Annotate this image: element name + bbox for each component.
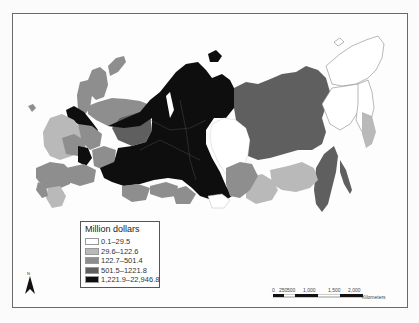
legend-swatch xyxy=(85,248,99,255)
region-sakhalin xyxy=(340,160,352,194)
legend-swatch xyxy=(85,267,99,274)
island-kaliningrad xyxy=(28,104,36,112)
legend-title: Million dollars xyxy=(85,224,155,234)
scale-tick: 0 xyxy=(272,287,275,293)
legend-item: 29.6–122.6 xyxy=(85,247,155,257)
region-amur xyxy=(270,162,318,192)
island-severnaya-zemlya xyxy=(208,50,222,62)
region-south xyxy=(46,186,66,208)
scale-tick: 1,000 xyxy=(303,287,316,293)
choropleth-map xyxy=(0,0,419,323)
scale-tick: 1,500 xyxy=(328,287,341,293)
island-novaya-zemlya xyxy=(108,56,126,76)
legend-item: 0.1–29.5 xyxy=(85,237,155,247)
legend-label: 0.1–29.5 xyxy=(101,237,130,246)
legend-swatch xyxy=(85,238,99,245)
map-legend: Million dollars 0.1–29.5 29.6–122.6 122.… xyxy=(80,221,160,288)
legend-label: 501.5–1221.8 xyxy=(101,266,147,275)
island-new-siberian xyxy=(334,38,344,46)
legend-swatch xyxy=(85,257,99,264)
legend-item: 1,221.9–22,946.8 xyxy=(85,275,155,285)
scale-tick: 500 xyxy=(287,287,295,293)
region-chukotka xyxy=(326,36,384,86)
legend-label: 1,221.9–22,946.8 xyxy=(101,275,159,284)
region-south-center xyxy=(66,164,96,186)
scale-bar-graphic xyxy=(273,294,363,298)
legend-label: 29.6–122.6 xyxy=(101,247,139,256)
scale-unit: Kilometers xyxy=(362,294,386,300)
scale-tick: 2,000 xyxy=(348,287,361,293)
region-south-ural xyxy=(122,184,150,202)
region-kamchatka-south xyxy=(362,112,376,148)
legend-item: 501.5–1221.8 xyxy=(85,266,155,276)
north-arrow-icon xyxy=(24,272,36,296)
region-novosibirsk xyxy=(150,182,178,198)
scale-bar: 0 250 500 1,000 1,500 2,000 Kilometers xyxy=(272,287,392,303)
legend-label: 122.7–501.4 xyxy=(101,256,143,265)
legend-swatch xyxy=(85,276,99,283)
legend-item: 122.7–501.4 xyxy=(85,256,155,266)
